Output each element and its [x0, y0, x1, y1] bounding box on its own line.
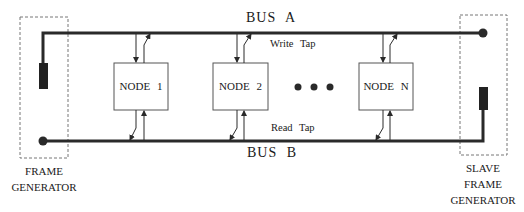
bus-diagram: BUS A BUS B Write Tap Read Tap NODE 1 NO…	[0, 0, 524, 212]
slave-frame-generator-label: SLAVE FRAME GENERATOR	[443, 160, 523, 208]
bus-b-line	[39, 110, 484, 146]
read-tap-label: Read Tap	[271, 122, 315, 133]
node-2-label: NODE 2	[213, 80, 268, 92]
bus-b-label: BUS B	[247, 145, 297, 161]
slave-frame-generator-line2: FRAME	[443, 176, 523, 192]
node-1-label: NODE 1	[114, 80, 168, 92]
slave-frame-generator-line1: SLAVE	[443, 160, 523, 176]
ellipsis-dots	[295, 84, 334, 91]
frame-generator-label: FRAME GENERATOR	[4, 163, 84, 195]
frame-generator-line1: FRAME	[4, 163, 84, 179]
slave-generator-source-block	[479, 87, 488, 110]
node-n-label: NODE N	[359, 80, 413, 92]
frame-generator-source-block	[39, 63, 48, 89]
bus-a-label: BUS A	[246, 10, 296, 26]
frame-generator-line2: GENERATOR	[4, 179, 84, 195]
slave-frame-generator-line3: GENERATOR	[443, 192, 523, 208]
bus-a-line	[43, 29, 488, 65]
write-tap-label: Write Tap	[270, 38, 316, 49]
